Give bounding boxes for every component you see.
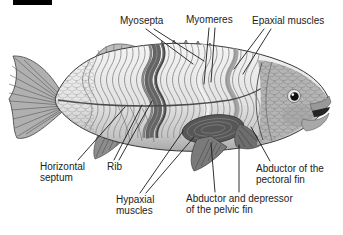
peduncle-scales xyxy=(56,55,94,147)
label-epaxial-muscles: Epaxial muscles xyxy=(252,15,324,26)
label-myomeres: Myomeres xyxy=(186,14,233,25)
label-abductor-pectoral-fin: Abductor of the pectoral fin xyxy=(256,163,340,185)
eye-icon xyxy=(288,90,301,103)
fish-musculature-figure: Myosepta Myomeres Epaxial muscles Horizo… xyxy=(0,0,343,235)
label-hypaxial-muscles: Hypaxial muscles xyxy=(116,194,168,216)
label-myosepta: Myosepta xyxy=(120,15,163,26)
label-rib: Rib xyxy=(107,161,122,172)
fish-head xyxy=(256,60,327,145)
label-horizontal-septum: Horizontal septum xyxy=(40,161,94,183)
label-abductor-depressor-pelvic-fin: Abductor and depressor of the pelvic fin xyxy=(186,193,298,215)
